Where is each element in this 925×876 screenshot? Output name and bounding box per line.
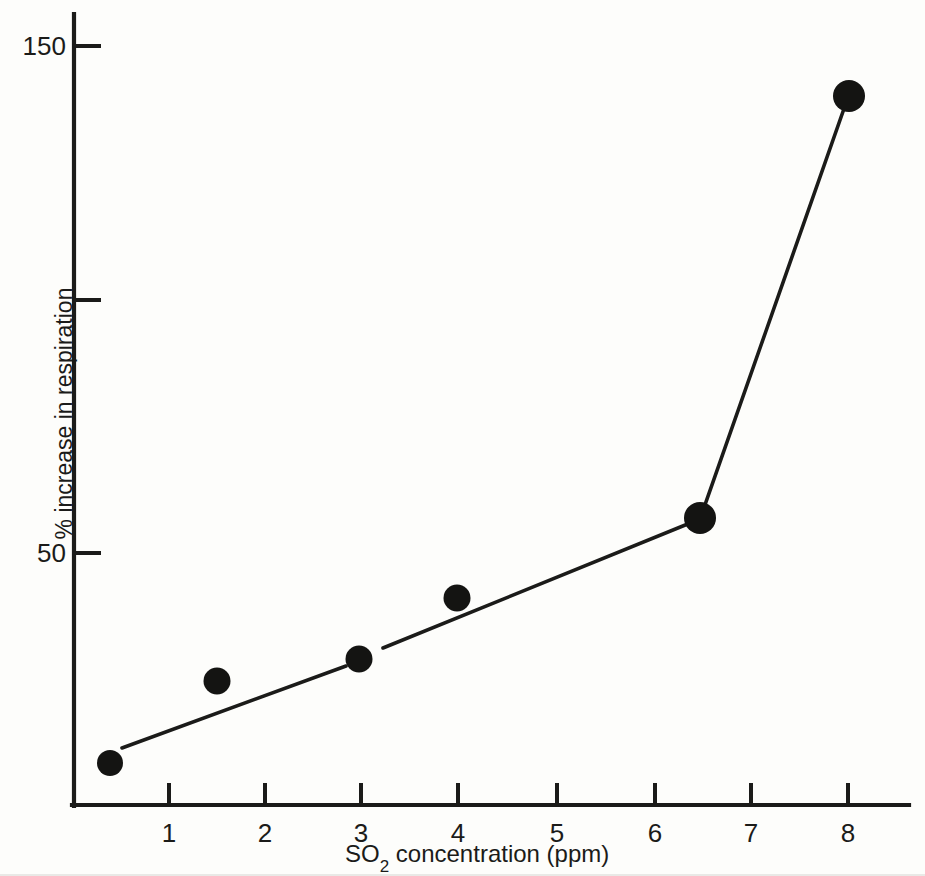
x-axis-title: SO2 concentration (ppm) bbox=[345, 840, 609, 873]
y-tick-label-150: 150 bbox=[4, 33, 66, 59]
trend-segment-mid bbox=[383, 519, 700, 648]
x-axis-ticks bbox=[169, 783, 848, 804]
chart-figure: 150 50 1 2 3 4 5 6 7 8 % increase in res… bbox=[0, 0, 925, 876]
x-axis-title-main: SO bbox=[345, 840, 380, 867]
data-point-3 bbox=[346, 646, 373, 673]
data-point-4 bbox=[444, 585, 471, 612]
trend-segment-high bbox=[700, 103, 846, 519]
y-axis-ticks bbox=[75, 46, 101, 553]
trend-line bbox=[122, 103, 846, 748]
x-axis-title-rest: concentration (ppm) bbox=[389, 840, 609, 867]
data-point-2 bbox=[204, 668, 231, 695]
data-points bbox=[97, 80, 865, 776]
chart-plot-area bbox=[0, 0, 925, 876]
data-point-5 bbox=[684, 502, 716, 534]
x-tick-label-6: 6 bbox=[635, 820, 675, 846]
x-tick-label-7: 7 bbox=[731, 820, 771, 846]
x-axis-title-subscript: 2 bbox=[380, 857, 389, 876]
x-tick-label-2: 2 bbox=[245, 820, 285, 846]
data-point-1 bbox=[97, 750, 123, 776]
data-point-6 bbox=[833, 80, 865, 112]
trend-segment-low bbox=[122, 666, 346, 748]
x-tick-label-1: 1 bbox=[149, 820, 189, 846]
y-axis-title: % increase in respiration bbox=[51, 264, 78, 564]
x-tick-label-8: 8 bbox=[828, 820, 868, 846]
axis-lines bbox=[72, 14, 909, 806]
